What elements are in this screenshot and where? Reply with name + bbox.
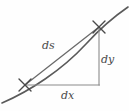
label-dx: dx [61, 90, 74, 101]
segment-ds [25, 27, 99, 85]
label-dy: dy [101, 54, 114, 65]
arc-length-figure: ds dy dx [0, 0, 129, 111]
label-ds: ds [42, 40, 55, 51]
